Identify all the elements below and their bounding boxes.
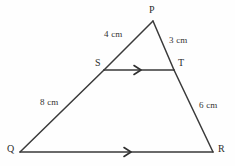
segment-SQ [20, 70, 104, 152]
vertex-label-P: P [149, 5, 155, 15]
measure-label-TR: 6 cm [199, 101, 218, 110]
measure-label-PT: 3 cm [169, 36, 188, 45]
vertex-label-T: T [178, 58, 184, 68]
segment-PT [153, 21, 174, 70]
vertex-label-R: R [218, 144, 225, 154]
triangle-figure [0, 0, 235, 166]
parallel-arrow-markers [124, 66, 141, 157]
vertex-label-S: S [95, 58, 101, 68]
geometry-diagram: P Q R S T 4 cm 3 cm 8 cm 6 cm [0, 0, 235, 166]
measure-label-PS: 4 cm [104, 30, 123, 39]
measure-label-SQ: 8 cm [40, 98, 59, 107]
segment-TR [174, 70, 213, 152]
vertex-label-Q: Q [7, 144, 14, 154]
